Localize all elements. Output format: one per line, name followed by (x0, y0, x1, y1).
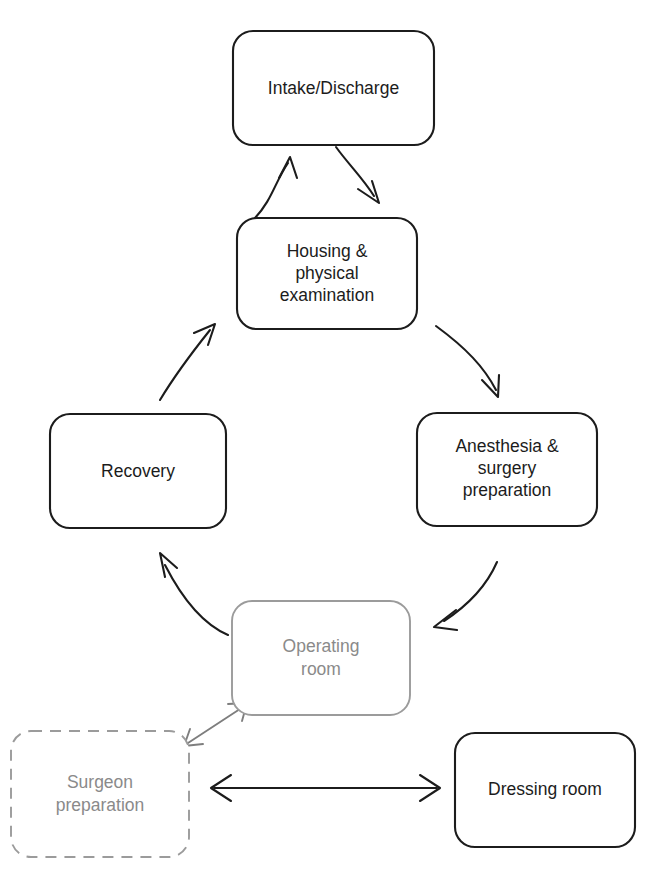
edge-housing-to-anesthesia-line (436, 326, 496, 390)
edge-operating-room-to-recovery (160, 553, 228, 635)
edge-recovery-to-housing (160, 324, 215, 400)
node-anesthesia-surgery-preparation-label-line2: surgery (478, 458, 537, 478)
edge-intake-to-housing (336, 147, 379, 203)
edge-housing-to-anesthesia-arrowhead (482, 375, 499, 397)
node-recovery-label: Recovery (101, 461, 175, 481)
edge-housing-to-intake (255, 157, 297, 218)
node-housing-physical-examination-label-line1: Housing & (287, 241, 368, 261)
edge-recovery-to-housing-line (160, 330, 210, 400)
node-surgeon-preparation-label-line2: preparation (56, 795, 145, 815)
edge-housing-to-anesthesia (436, 326, 499, 397)
node-intake-discharge-label: Intake/Discharge (268, 78, 399, 98)
node-housing-physical-examination-label-line3: examination (280, 285, 374, 305)
node-anesthesia-surgery-preparation-label-line3: preparation (463, 480, 552, 500)
node-layer: Intake/Discharge Housing & physical exam… (11, 31, 635, 857)
node-recovery[interactable]: Recovery (50, 414, 226, 528)
edge-intake-to-housing-line (336, 147, 374, 196)
node-operating-room-label-line2: room (301, 659, 341, 679)
node-operating-room[interactable]: Operating room (232, 601, 410, 715)
edge-intake-to-housing-arrowhead (358, 181, 379, 203)
node-intake-discharge[interactable]: Intake/Discharge (233, 31, 434, 145)
node-dressing-room[interactable]: Dressing room (455, 733, 635, 847)
edge-surgeon-preparation-dressing-room (211, 775, 440, 801)
node-anesthesia-surgery-preparation[interactable]: Anesthesia & surgery preparation (417, 413, 597, 526)
node-operating-room-label-line1: Operating (283, 636, 360, 656)
edge-recovery-to-housing-arrowhead (194, 324, 215, 345)
flow-diagram-canvas: Intake/Discharge Housing & physical exam… (0, 0, 645, 871)
diagram-svg: Intake/Discharge Housing & physical exam… (0, 0, 645, 871)
edge-operating-room-to-recovery-line (165, 565, 228, 635)
node-anesthesia-surgery-preparation-label-line1: Anesthesia & (455, 436, 558, 456)
node-dressing-room-label: Dressing room (488, 779, 602, 799)
edge-operating-room-surgeon-preparation-line (188, 707, 243, 743)
node-housing-physical-examination-label-line2: physical (295, 263, 358, 283)
edge-anesthesia-to-operating-room (434, 562, 497, 630)
edge-housing-to-intake-arrowhead (279, 157, 297, 178)
node-surgeon-preparation-label-line1: Surgeon (67, 772, 133, 792)
node-housing-physical-examination[interactable]: Housing & physical examination (237, 218, 417, 329)
node-surgeon-preparation[interactable]: Surgeon preparation (11, 731, 189, 857)
